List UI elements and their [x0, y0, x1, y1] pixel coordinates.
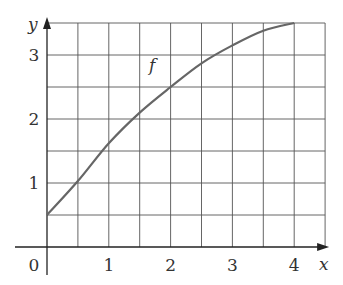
y-tick-label: 3	[29, 45, 40, 65]
x-tick-label: 0	[29, 255, 40, 275]
x-tick-label: 1	[103, 255, 114, 275]
y-tick-label: 1	[29, 173, 40, 193]
y-axis-label: y	[27, 14, 38, 34]
function-label-f: f	[147, 55, 158, 75]
y-tick-label: 2	[29, 109, 40, 129]
x-axis-arrow-icon	[317, 243, 329, 251]
function-graph: 01234123 f x y	[0, 0, 343, 285]
tick-labels: 01234123	[29, 45, 300, 275]
axes	[15, 17, 329, 275]
x-tick-label: 3	[227, 255, 238, 275]
x-tick-label: 4	[289, 255, 300, 275]
x-tick-label: 2	[165, 255, 176, 275]
x-axis-label: x	[319, 254, 329, 274]
grid-lines	[47, 23, 325, 247]
